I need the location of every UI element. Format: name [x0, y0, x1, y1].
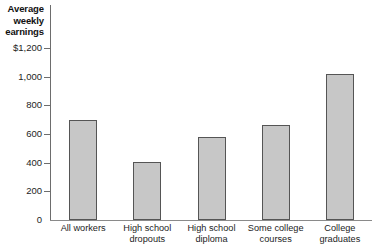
- category-label: All workers: [51, 223, 115, 234]
- x-axis-line: [50, 220, 372, 221]
- y-tick-label: 400: [0, 158, 42, 168]
- y-tick-label: 1,000: [0, 72, 42, 82]
- category-label: High school diploma: [179, 223, 243, 245]
- y-tick-mark: [44, 191, 50, 192]
- chart-title: Average weekly earnings: [0, 3, 44, 38]
- y-tick-mark: [44, 77, 50, 78]
- category-label: Some college courses: [244, 223, 308, 245]
- bar-chart: Average weekly earnings 02004006008001,0…: [0, 0, 375, 252]
- y-tick-label: 800: [0, 100, 42, 110]
- bar: [262, 125, 290, 220]
- y-tick-mark: [44, 105, 50, 106]
- y-tick-label: 600: [0, 129, 42, 139]
- bar: [69, 120, 97, 220]
- y-tick-label: 200: [0, 186, 42, 196]
- category-label: High school dropouts: [115, 223, 179, 245]
- bar: [198, 137, 226, 220]
- y-tick-mark: [44, 48, 50, 49]
- y-axis-line: [50, 5, 51, 220]
- y-tick-label: $1,200: [0, 43, 42, 53]
- bar: [326, 74, 354, 220]
- y-tick-label: 0: [0, 215, 42, 225]
- category-label: College graduates: [308, 223, 372, 245]
- bar: [133, 162, 161, 220]
- y-tick-mark: [44, 134, 50, 135]
- y-tick-mark: [44, 163, 50, 164]
